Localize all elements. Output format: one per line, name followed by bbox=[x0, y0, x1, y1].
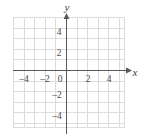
y-tick-label-2: 2 bbox=[57, 48, 62, 58]
x-tick-label-zero: 0 bbox=[58, 74, 63, 84]
x-tick-label-2: 2 bbox=[86, 74, 91, 84]
x-axis-label: x bbox=[132, 66, 138, 78]
x-tick-label-4: 4 bbox=[107, 74, 112, 84]
x-axis-arrow-icon bbox=[126, 68, 132, 74]
y-tick-label-4: 4 bbox=[57, 27, 62, 37]
coordinate-plane-svg: y x –4 –2 0 2 4 4 2 –2 –4 bbox=[0, 0, 142, 139]
y-axis-arrow-icon bbox=[64, 13, 70, 19]
y-tick-label-minus4: –4 bbox=[51, 111, 62, 121]
x-tick-label-minus4: –4 bbox=[18, 74, 29, 84]
y-tick-label-minus2: –2 bbox=[51, 90, 62, 100]
x-tick-label-minus2: –2 bbox=[39, 74, 50, 84]
y-axis-label: y bbox=[64, 1, 70, 13]
coordinate-plane-figure: y x –4 –2 0 2 4 4 2 –2 –4 bbox=[0, 0, 142, 139]
